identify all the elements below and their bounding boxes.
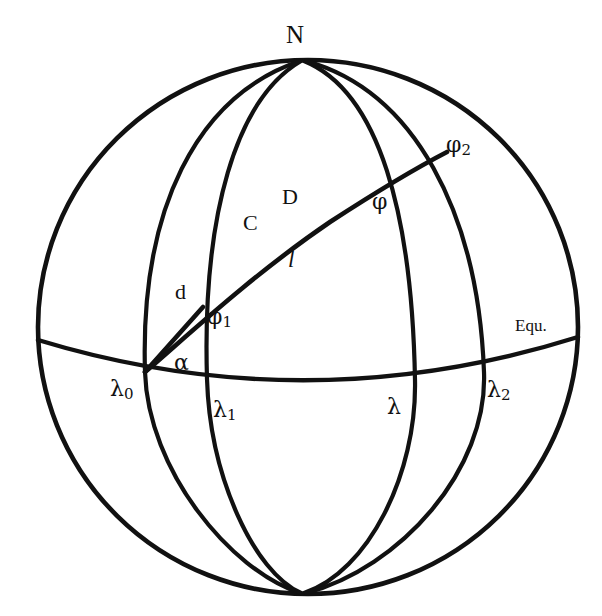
label-phi-1-base: φ	[207, 304, 222, 329]
label-point-c: C	[243, 212, 258, 234]
sphere-outline	[38, 60, 578, 594]
label-lambda-2: λ2	[487, 379, 511, 403]
label-phi-2-subscript: 2	[461, 141, 471, 159]
label-lambda-0-subscript: 0	[124, 385, 134, 403]
label-lambda: λ	[387, 396, 401, 418]
label-arc-length-l: l	[288, 248, 294, 271]
label-north-pole: N	[286, 22, 304, 47]
label-phi: φ	[372, 191, 387, 213]
label-lambda-1-subscript: 1	[227, 406, 237, 424]
label-distance-d: d	[175, 281, 186, 303]
label-lambda-0: λ0	[110, 378, 134, 402]
label-phi-1: φ1	[207, 306, 232, 330]
sphere-graphic	[0, 0, 602, 616]
label-azimuth-alpha: α	[174, 352, 189, 374]
label-phi-2: φ2	[446, 134, 471, 158]
label-equator-label: Equ.	[515, 317, 547, 334]
label-lambda-2-base: λ	[487, 377, 501, 402]
label-phi-1-subscript: 1	[222, 313, 232, 331]
label-lambda-1-base: λ	[213, 397, 227, 422]
equator-line	[38, 337, 578, 380]
label-lambda-1: λ1	[213, 399, 237, 423]
label-lambda-2-subscript: 2	[501, 386, 511, 404]
label-lambda-0-base: λ	[110, 376, 124, 401]
label-point-d-upper: D	[282, 186, 298, 208]
label-phi-2-base: φ	[446, 132, 461, 157]
sphere-diagram: Nφ2φDCldφ1Equ.αλ0λ1λλ2	[0, 0, 602, 616]
meridian-lambda	[304, 61, 415, 593]
